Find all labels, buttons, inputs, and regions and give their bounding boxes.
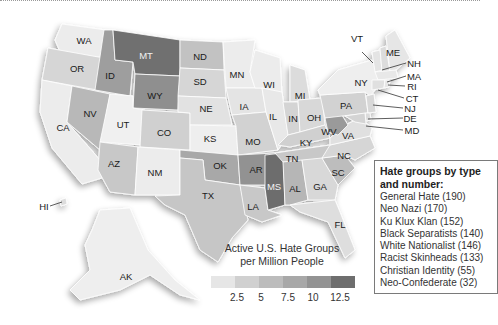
label-NC: NC — [337, 150, 351, 161]
label-WA: WA — [77, 35, 93, 46]
label-NE: NE — [199, 103, 212, 114]
label-AZ: AZ — [108, 158, 120, 169]
type-item: Christian Identity (55) — [380, 265, 492, 277]
legend-title: Active U.S. Hate Groups per Million Peop… — [222, 242, 342, 268]
hate-group-types-box: Hate groups by type and number: General … — [374, 160, 498, 294]
state-MA[interactable] — [375, 70, 398, 80]
label-MS: MS — [267, 181, 281, 192]
label-UT: UT — [117, 119, 130, 130]
label-IA: IA — [240, 101, 250, 112]
tick-10: 10 — [307, 292, 318, 303]
label-PA: PA — [340, 100, 353, 111]
label-NM: NM — [148, 167, 163, 178]
label-DE: DE — [403, 113, 416, 124]
label-WV: WV — [321, 126, 337, 137]
label-FL: FL — [334, 219, 345, 230]
label-TN: TN — [286, 153, 299, 164]
label-ID: ID — [105, 70, 115, 81]
type-item: Racist Skinheads (133) — [380, 252, 492, 264]
scale-swatch-5 — [307, 276, 331, 288]
label-SD: SD — [193, 76, 206, 87]
label-TX: TX — [202, 190, 215, 201]
label-MT: MT — [139, 50, 153, 61]
label-KY: KY — [300, 137, 313, 148]
label-GA: GA — [313, 181, 327, 192]
label-ND: ND — [193, 51, 207, 62]
scale-swatch-2 — [235, 276, 259, 288]
state-CT[interactable] — [372, 80, 385, 90]
types-box-title: Hate groups by type and number: — [380, 165, 492, 190]
label-OH: OH — [307, 112, 321, 123]
type-item: Neo Nazi (170) — [380, 203, 492, 215]
state-NY[interactable] — [318, 60, 382, 96]
scale-swatch-4 — [283, 276, 307, 288]
label-WI: WI — [263, 79, 275, 90]
label-MN: MN — [230, 69, 245, 80]
label-NV: NV — [83, 108, 97, 119]
type-item: Neo-Confederate (32) — [380, 277, 492, 289]
label-NH: NH — [407, 58, 421, 69]
scale-swatch-1 — [211, 276, 235, 288]
label-RI: RI — [407, 81, 417, 92]
tick-5: 5 — [258, 292, 264, 303]
label-AK: AK — [120, 271, 133, 282]
label-ME: ME — [386, 47, 400, 58]
tick-12-5: 12.5 — [330, 292, 349, 303]
label-IN: IN — [288, 113, 298, 124]
label-MI: MI — [295, 90, 306, 101]
type-item: General Hate (190) — [380, 191, 492, 203]
label-AR: AR — [249, 164, 262, 175]
label-LA: LA — [247, 201, 259, 212]
label-CA: CA — [56, 122, 70, 133]
label-HI: HI — [39, 201, 49, 212]
tick-2-5: 2.5 — [230, 292, 244, 303]
label-IL: IL — [269, 111, 277, 122]
label-WY: WY — [147, 90, 163, 101]
label-CO: CO — [157, 127, 171, 138]
label-MO: MO — [245, 136, 260, 147]
scale-swatch-6 — [331, 276, 355, 288]
state-NJ[interactable] — [366, 94, 376, 113]
label-KS: KS — [204, 133, 217, 144]
label-SC: SC — [331, 167, 344, 178]
label-AL: AL — [289, 183, 301, 194]
label-VT: VT — [351, 33, 363, 44]
label-MD: MD — [405, 125, 420, 136]
label-NY: NY — [354, 77, 368, 88]
legend-title-line1: Active U.S. Hate Groups — [222, 242, 342, 255]
legend-title-line2: per Million People — [222, 255, 342, 268]
label-OK: OK — [213, 160, 227, 171]
label-VA: VA — [342, 130, 355, 141]
type-item: Black Separatists (140) — [380, 228, 492, 240]
state-MN[interactable] — [223, 40, 255, 88]
legend-color-scale — [211, 276, 355, 288]
scale-swatch-3 — [259, 276, 283, 288]
tick-7-5: 7.5 — [281, 292, 295, 303]
type-item: Ku Klux Klan (152) — [380, 216, 492, 228]
state-AK[interactable] — [70, 208, 200, 300]
label-OR: OR — [70, 63, 84, 74]
type-item: White Nationalist (146) — [380, 240, 492, 252]
